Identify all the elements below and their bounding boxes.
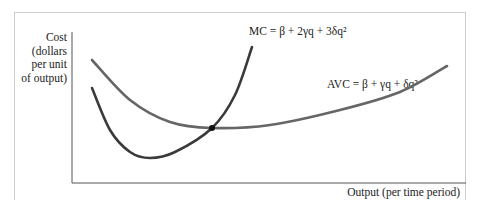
avc-curve <box>92 60 447 128</box>
mc-curve <box>92 47 252 158</box>
chart-plot <box>0 0 482 200</box>
intersection-point <box>209 125 215 131</box>
